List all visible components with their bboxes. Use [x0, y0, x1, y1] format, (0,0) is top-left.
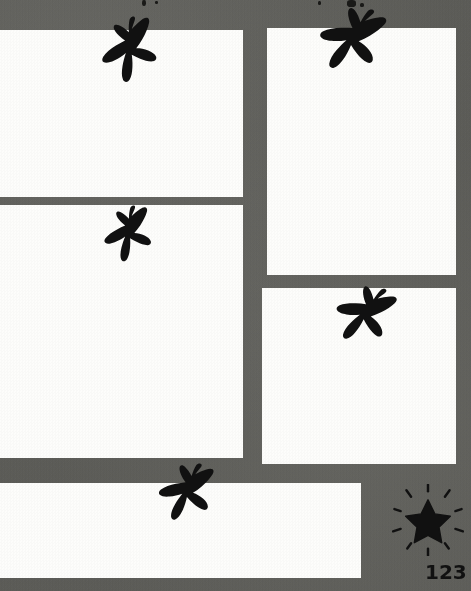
starburst-icon [392, 484, 464, 560]
comic-page: 123 [0, 0, 471, 591]
bird-silhouette-5 [148, 454, 225, 531]
bird-silhouette-1 [86, 7, 171, 92]
page-number: 123 [425, 562, 467, 582]
top-edge-fleck-2 [155, 1, 158, 4]
bird-silhouette-3 [93, 199, 163, 269]
top-edge-fleck-1 [142, 0, 146, 6]
